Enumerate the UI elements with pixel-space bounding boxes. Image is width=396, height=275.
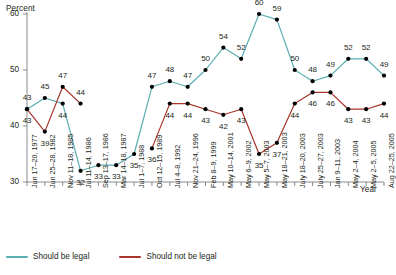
x-tick-label: May 6–9, 2002 bbox=[244, 140, 253, 188]
data-label: 33 bbox=[112, 172, 121, 181]
data-label: 43 bbox=[201, 116, 210, 125]
data-label: 39 bbox=[41, 139, 50, 148]
x-tick-label: May 10–14, 2001 bbox=[226, 132, 235, 188]
data-label: 43 bbox=[237, 116, 246, 125]
data-label: 47 bbox=[58, 71, 67, 80]
data-label: 49 bbox=[326, 60, 335, 69]
data-label: 44 bbox=[165, 111, 174, 120]
legend-swatch-should-be-legal bbox=[6, 256, 28, 258]
x-tick-label: Jun 17–20, 1977 bbox=[30, 134, 39, 188]
data-label: 44 bbox=[380, 111, 389, 120]
x-tick-label: Nov 11–18, 1985 bbox=[66, 134, 75, 188]
legend-label-should-be-legal: Should be legal bbox=[33, 252, 89, 261]
data-label: 54 bbox=[219, 32, 228, 41]
data-label: 52 bbox=[344, 43, 353, 52]
data-label: 44 bbox=[290, 111, 299, 120]
data-label: 42 bbox=[219, 122, 228, 131]
data-label: 43 bbox=[344, 116, 353, 125]
data-label: 59 bbox=[273, 4, 282, 13]
chart-legend: Should be legal Should not be legal bbox=[6, 252, 217, 261]
x-tick-label: May 2–4, 2004 bbox=[351, 140, 360, 188]
y-tick-30: 30 bbox=[1, 177, 19, 186]
x-tick-label: Nov 21–24, 1996 bbox=[191, 133, 200, 188]
data-label: 33 bbox=[94, 172, 103, 181]
data-label: 48 bbox=[165, 65, 174, 74]
x-tick-label: Aug 22–25, 2005 bbox=[387, 133, 396, 188]
data-label: 50 bbox=[201, 54, 210, 63]
legend-swatch-should-not-be-legal bbox=[119, 256, 141, 258]
data-label: 37 bbox=[273, 150, 282, 159]
data-label: 52 bbox=[362, 43, 371, 52]
data-label: 35 bbox=[255, 161, 264, 170]
data-label: 46 bbox=[308, 99, 317, 108]
data-label: 48 bbox=[308, 65, 317, 74]
x-tick-label: May 18–21, 2003 bbox=[280, 132, 289, 188]
data-label: 45 bbox=[41, 82, 50, 91]
data-label: 46 bbox=[326, 99, 335, 108]
x-tick-label: July 25–27, 2003 bbox=[316, 133, 325, 188]
data-label: 32 bbox=[76, 178, 85, 187]
data-label: 44 bbox=[183, 111, 192, 120]
y-tick-40: 40 bbox=[1, 121, 19, 130]
x-tick-label: Jan 9–11, 2003 bbox=[333, 139, 342, 188]
data-label: 44 bbox=[58, 111, 67, 120]
legend-item-should-be-legal: Should be legal bbox=[6, 252, 89, 261]
x-tick-label: Feb 8–9, 1999 bbox=[209, 142, 218, 188]
data-label: 47 bbox=[183, 71, 192, 80]
data-label: 52 bbox=[237, 43, 246, 52]
x-tick-label: May 2–5, 2005 bbox=[369, 140, 378, 188]
data-label: 50 bbox=[290, 54, 299, 63]
data-label: 35 bbox=[130, 161, 139, 170]
data-label: 43 bbox=[362, 116, 371, 125]
y-tick-60: 60 bbox=[1, 9, 19, 18]
data-label: 43 bbox=[23, 93, 32, 102]
x-tick-label: July 18–20, 2003 bbox=[298, 133, 307, 188]
y-tick-50: 50 bbox=[1, 65, 19, 74]
data-label: 47 bbox=[148, 71, 157, 80]
legend-item-should-not-be-legal: Should not be legal bbox=[119, 252, 216, 261]
x-tick-label: Jul 4–8, 1992 bbox=[173, 145, 182, 188]
data-label: 49 bbox=[380, 60, 389, 69]
legend-label-should-not-be-legal: Should not be legal bbox=[146, 252, 216, 261]
data-label: 43 bbox=[23, 116, 32, 125]
data-label: 44 bbox=[76, 88, 85, 97]
data-label: 36 bbox=[148, 155, 157, 164]
data-label: 60 bbox=[255, 0, 264, 7]
